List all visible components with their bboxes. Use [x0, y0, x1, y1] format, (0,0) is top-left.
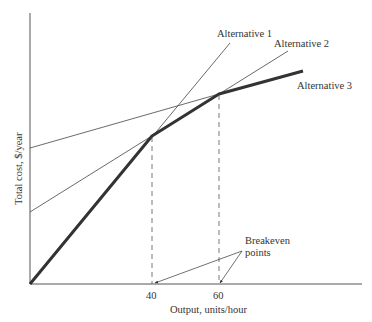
breakeven-arrow-40	[155, 251, 242, 283]
breakeven-chart: Alternative 1 Alternative 2 Alternative …	[0, 0, 372, 322]
x-axis-label: Output, units/hour	[170, 304, 248, 315]
y-axis-label: Total cost, $/year	[13, 132, 24, 205]
alternative-3-line	[30, 94, 219, 148]
breakeven-arrow-60	[220, 251, 242, 283]
label-alternative-3: Alternative 3	[297, 80, 352, 91]
label-breakeven-line1: Breakeven	[245, 235, 291, 246]
tick-40: 40	[146, 290, 157, 301]
label-alternative-1: Alternative 1	[217, 28, 272, 39]
tick-60: 60	[213, 290, 224, 301]
label-alternative-2: Alternative 2	[274, 38, 329, 49]
label-breakeven-line2: points	[245, 247, 271, 258]
